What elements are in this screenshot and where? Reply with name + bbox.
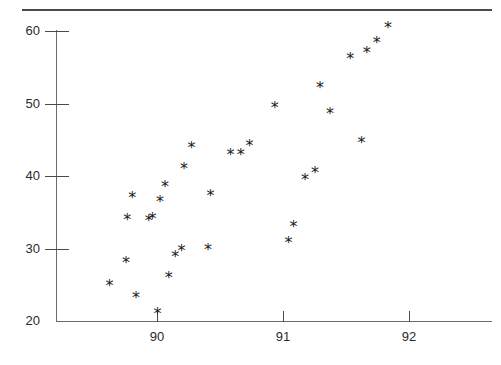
- data-point-marker: *: [152, 307, 163, 320]
- data-point-marker: *: [269, 101, 280, 114]
- data-point-marker: *: [283, 236, 294, 249]
- data-point-marker: *: [202, 243, 213, 256]
- data-point-marker: *: [315, 81, 326, 94]
- data-point-marker: *: [371, 36, 382, 49]
- y-axis-tick-mark: [45, 249, 69, 250]
- x-axis-tick-label: 92: [389, 330, 429, 343]
- y-axis-tick-mark: [45, 176, 69, 177]
- x-axis-tick-mark: [283, 311, 284, 322]
- data-point-marker: *: [288, 220, 299, 233]
- y-axis-tick-mark: [45, 31, 69, 32]
- data-point-marker: *: [160, 180, 171, 193]
- data-point-marker: *: [345, 52, 356, 65]
- data-point-marker: *: [121, 256, 132, 269]
- data-point-marker: *: [244, 139, 255, 152]
- x-axis-tick-mark: [409, 311, 410, 322]
- y-axis-tick-label: 40: [8, 169, 40, 182]
- data-point-marker: *: [356, 136, 367, 149]
- data-point-marker: *: [131, 291, 142, 304]
- y-axis-tick-label: 20: [8, 314, 40, 327]
- y-axis-tick-label: 30: [8, 242, 40, 255]
- data-point-marker: *: [383, 21, 394, 34]
- data-point-marker: *: [122, 213, 133, 226]
- data-point-marker: *: [127, 191, 138, 204]
- y-axis-tick-label: 50: [8, 97, 40, 110]
- x-axis-tick-label: 90: [137, 330, 177, 343]
- data-point-marker: *: [176, 244, 187, 257]
- data-point-marker: *: [205, 189, 216, 202]
- data-point-marker: *: [178, 162, 189, 175]
- data-point-marker: *: [186, 141, 197, 154]
- x-axis-tick-label: 91: [263, 330, 303, 343]
- y-axis-tick-label: 60: [8, 24, 40, 37]
- top-horizontal-rule: [22, 9, 492, 11]
- y-axis-tick-mark: [45, 104, 69, 105]
- data-point-marker: *: [325, 107, 336, 120]
- data-point-marker: *: [155, 195, 166, 208]
- data-point-marker: *: [104, 279, 115, 292]
- scatter-plot-figure: 6050403020 909192 **********************…: [0, 0, 501, 365]
- x-axis-line: [56, 321, 492, 322]
- data-point-marker: *: [147, 212, 158, 225]
- data-point-marker: *: [310, 166, 321, 179]
- data-point-marker: *: [163, 271, 174, 284]
